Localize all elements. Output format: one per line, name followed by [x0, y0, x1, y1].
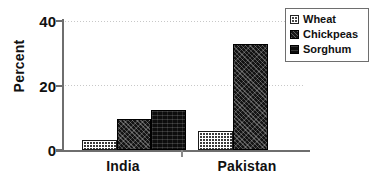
legend-item-wheat: Wheat: [290, 12, 364, 27]
category-divider-tick: [181, 150, 183, 157]
y-tick-mark-0: [56, 149, 63, 151]
y-tick-label-0: 0: [22, 143, 56, 158]
y-tick-label-40: 40: [22, 14, 56, 29]
sorghum-swatch-icon: [290, 45, 299, 54]
bar-india-chickpeas: [117, 119, 151, 150]
x-axis-line: [56, 150, 310, 152]
bar-india-wheat: [82, 140, 117, 150]
wheat-swatch-icon: [290, 15, 299, 24]
bar-india-sorghum: [151, 110, 186, 150]
bar-pakistan-wheat: [198, 131, 233, 150]
bar-pakistan-chickpeas: [233, 44, 268, 150]
x-label-india: India: [68, 158, 178, 174]
y-tick-mark-20: [56, 85, 63, 87]
chickpeas-swatch-icon: [290, 30, 299, 39]
y-axis-tick-labels: 40 20 0: [16, 0, 56, 183]
gridline-40: [62, 21, 304, 22]
y-tick-label-20: 20: [22, 79, 56, 94]
legend: Wheat Chickpeas Sorghum: [285, 8, 369, 62]
plot-area: [62, 21, 304, 150]
y-tick-mark-40: [56, 20, 63, 22]
bar-chart: Percent 40 20 0 India Pakistan Wheat: [0, 0, 373, 183]
legend-label-sorghum: Sorghum: [303, 44, 351, 55]
legend-label-wheat: Wheat: [303, 14, 336, 25]
legend-item-sorghum: Sorghum: [290, 42, 364, 57]
legend-item-chickpeas: Chickpeas: [290, 27, 364, 42]
legend-label-chickpeas: Chickpeas: [303, 29, 358, 40]
x-label-pakistan: Pakistan: [188, 158, 306, 174]
